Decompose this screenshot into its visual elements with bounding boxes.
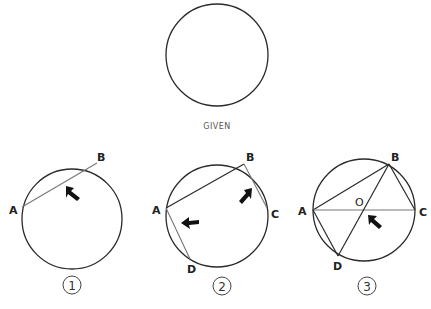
- label-a: A: [152, 204, 161, 217]
- label-b: B: [97, 151, 105, 164]
- step-1-figure: A B 1: [9, 151, 122, 294]
- label-d: D: [333, 260, 342, 273]
- chord-ad: [313, 210, 338, 256]
- arrow-icon: [239, 188, 252, 204]
- step-3-figure: A B C D O 3: [298, 151, 427, 295]
- step-1-circle: [22, 169, 122, 269]
- given-caption: GIVEN: [203, 122, 231, 131]
- given-figure: GIVEN: [166, 4, 268, 131]
- step-3-number: 3: [363, 280, 371, 294]
- step-1-number: 1: [68, 279, 76, 293]
- step-2-number: 2: [218, 280, 226, 294]
- arrow-icon: [181, 217, 199, 229]
- label-b: B: [246, 151, 254, 164]
- chord-ab: [313, 164, 389, 210]
- label-a: A: [9, 204, 18, 217]
- label-o: O: [355, 196, 364, 209]
- step-2-figure: A B C D 2: [152, 151, 279, 295]
- label-b: B: [391, 151, 399, 164]
- given-circle: [166, 4, 268, 106]
- label-c: C: [419, 206, 427, 219]
- arrow-icon: [66, 186, 80, 201]
- chord-bc: [244, 164, 267, 208]
- chord-bc: [389, 164, 415, 210]
- arrow-icon: [368, 215, 382, 229]
- geometry-diagram: GIVEN A B 1 A B C D 2 A B C D: [0, 0, 431, 309]
- label-a: A: [298, 205, 307, 218]
- label-c: C: [271, 208, 279, 221]
- chord-ab: [166, 164, 244, 208]
- label-d: D: [187, 263, 196, 276]
- chord-ab: [22, 163, 97, 207]
